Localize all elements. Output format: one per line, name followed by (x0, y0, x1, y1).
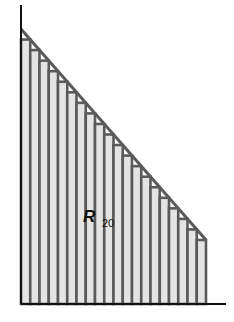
riemann-rectangle (58, 82, 67, 304)
riemann-label-subscript: 20 (102, 217, 114, 229)
riemann-rectangle (40, 61, 49, 304)
riemann-rectangle (95, 124, 104, 304)
riemann-rectangle (169, 208, 178, 304)
riemann-rectangle (30, 50, 39, 304)
riemann-rectangle (77, 103, 86, 304)
riemann-rectangle (49, 71, 58, 304)
riemann-rectangle (132, 166, 141, 304)
riemann-rectangle (123, 156, 132, 304)
riemann-rectangle (160, 198, 169, 304)
riemann-sum-diagram (0, 0, 234, 322)
riemann-rectangle (67, 92, 76, 304)
riemann-rectangle (114, 145, 123, 304)
riemann-rectangle (141, 177, 150, 304)
riemann-label: R (83, 207, 95, 227)
riemann-rectangle (151, 187, 160, 304)
riemann-rectangle (188, 229, 197, 304)
riemann-rectangle (197, 240, 206, 304)
riemann-rectangle (21, 40, 30, 304)
riemann-rectangle (178, 219, 187, 304)
